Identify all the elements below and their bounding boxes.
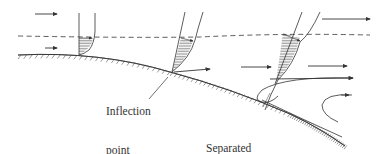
recirculation-curves <box>257 78 353 122</box>
velocity-profile-upstream <box>79 13 95 55</box>
wall-hatching <box>18 54 345 146</box>
inflection-leader <box>149 77 168 99</box>
separated-label-line1: Separated <box>206 142 251 154</box>
velocity-profile-separated <box>265 12 320 110</box>
inflection-label-line2: point <box>106 144 151 154</box>
inflection-label-line1: Inflection <box>106 105 151 118</box>
wall-surface <box>18 54 345 146</box>
velocity-profile-inflection <box>172 12 203 72</box>
boundary-layer-diagram <box>0 0 384 154</box>
inflection-point-label: Inflection point <box>106 79 151 154</box>
boundary-layer-edge <box>18 34 370 37</box>
dividing-streamline <box>262 100 342 137</box>
wall-hatch-marks <box>18 54 347 149</box>
separated-flow-label: Separated flow <box>206 116 251 154</box>
